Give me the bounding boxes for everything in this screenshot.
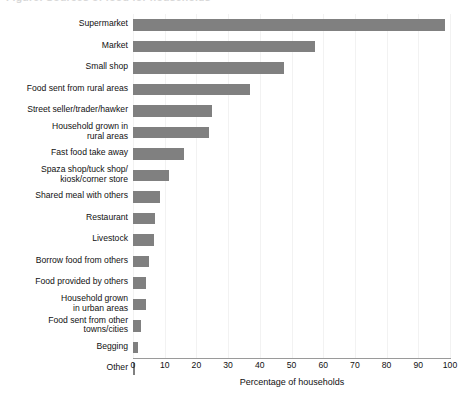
bar[interactable] — [133, 127, 209, 139]
x-tick-label: 10 — [150, 360, 180, 370]
bar-row[interactable] — [133, 315, 450, 337]
x-tick-label: 100 — [435, 360, 465, 370]
x-tick-label: 30 — [213, 360, 243, 370]
bar-row[interactable] — [133, 229, 450, 251]
bar-row[interactable] — [133, 143, 450, 165]
category-label: Livestock — [0, 234, 128, 244]
bar-row[interactable] — [133, 251, 450, 273]
bar[interactable] — [133, 41, 315, 53]
bar-chart-figure: Figure: Sources of food for households S… — [0, 0, 471, 408]
bar-row[interactable] — [133, 165, 450, 187]
category-label: Household grown in urban areas — [0, 294, 128, 313]
x-tick-label: 40 — [245, 360, 275, 370]
x-axis-tick-labels: 0102030405060708090100 — [0, 360, 471, 374]
bar[interactable] — [133, 148, 184, 160]
gridline-100 — [450, 14, 451, 358]
plot-area — [133, 14, 450, 358]
category-label: Supermarket — [0, 19, 128, 29]
category-label: Food sent from other towns/cities — [0, 316, 128, 335]
bar-row[interactable] — [133, 57, 450, 79]
bar-row[interactable] — [133, 122, 450, 144]
x-axis-title: Percentage of households — [133, 377, 451, 387]
category-label: Restaurant — [0, 213, 128, 223]
bar-row[interactable] — [133, 79, 450, 101]
bar-row[interactable] — [133, 208, 450, 230]
x-tick-label: 90 — [403, 360, 433, 370]
category-label: Begging — [0, 342, 128, 352]
category-label: Borrow food from others — [0, 256, 128, 266]
x-tick-label: 80 — [372, 360, 402, 370]
bars-layer — [133, 14, 450, 358]
bar-row[interactable] — [133, 14, 450, 36]
category-label: Household grown in rural areas — [0, 122, 128, 141]
x-tick-label: 20 — [181, 360, 211, 370]
chart-title: Figure: Sources of food for households — [0, 0, 471, 3]
x-tick-label: 60 — [308, 360, 338, 370]
bar[interactable] — [133, 320, 141, 332]
bar-row[interactable] — [133, 272, 450, 294]
bar[interactable] — [133, 256, 149, 268]
bar[interactable] — [133, 342, 138, 354]
category-label: Street seller/trader/hawker — [0, 105, 128, 115]
bar-row[interactable] — [133, 100, 450, 122]
bar-row[interactable] — [133, 36, 450, 58]
category-label: Market — [0, 41, 128, 51]
x-tick-label: 70 — [340, 360, 370, 370]
category-label: Food sent from rural areas — [0, 84, 128, 94]
x-axis-line — [133, 358, 451, 359]
bar-row[interactable] — [133, 337, 450, 359]
bar[interactable] — [133, 299, 146, 311]
bar[interactable] — [133, 19, 445, 31]
category-label: Shared meal with others — [0, 191, 128, 201]
category-axis-labels: SupermarketMarketSmall shopFood sent fro… — [0, 14, 128, 358]
bar[interactable] — [133, 213, 155, 225]
category-label: Small shop — [0, 62, 128, 72]
bar[interactable] — [133, 191, 160, 203]
category-label: Spaza shop/tuck shop/ kiosk/corner store — [0, 165, 128, 184]
x-tick-label: 0 — [118, 360, 148, 370]
x-tick-label: 50 — [277, 360, 307, 370]
bar[interactable] — [133, 234, 154, 246]
bar[interactable] — [133, 84, 250, 96]
bar[interactable] — [133, 170, 169, 182]
category-label: Fast food take away — [0, 148, 128, 158]
bar-row[interactable] — [133, 186, 450, 208]
bar[interactable] — [133, 277, 146, 289]
bar[interactable] — [133, 105, 212, 117]
category-label: Food provided by others — [0, 277, 128, 287]
bar-row[interactable] — [133, 294, 450, 316]
bar[interactable] — [133, 62, 284, 74]
